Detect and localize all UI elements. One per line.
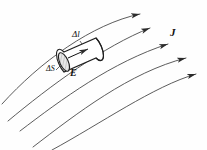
volume-element-cylinder <box>56 38 103 73</box>
label-delta-l: Δl <box>72 30 80 39</box>
label-current-density: J <box>170 27 176 38</box>
streamline-4 <box>33 58 186 147</box>
physics-figure: Δl ΔS E J <box>0 0 207 150</box>
delta-s-leader <box>56 66 60 70</box>
streamline-group <box>2 14 196 150</box>
label-electric-field: E <box>70 68 77 78</box>
label-delta-s: ΔS <box>46 65 55 73</box>
streamline-2 <box>8 28 150 121</box>
delta-l-leader <box>80 41 82 44</box>
streamline-5 <box>52 74 196 150</box>
figure-canvas <box>0 0 207 150</box>
